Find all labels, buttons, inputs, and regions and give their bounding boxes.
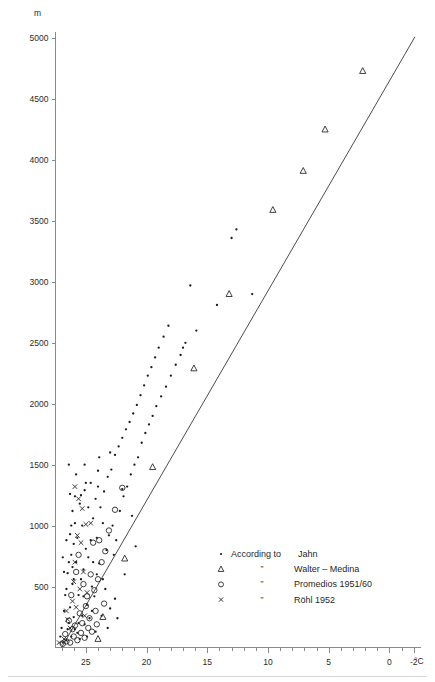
data-point [66, 572, 68, 574]
data-point [132, 412, 134, 414]
data-point [97, 470, 99, 472]
data-point [119, 510, 121, 512]
data-point [189, 284, 191, 286]
data-point [148, 423, 150, 425]
data-point [109, 451, 111, 453]
data-point [121, 437, 123, 439]
data-point [79, 503, 81, 505]
data-point [175, 364, 177, 366]
data-point [130, 473, 132, 475]
data-point [216, 304, 218, 306]
data-point [90, 482, 92, 484]
data-point [69, 493, 71, 495]
data-point [134, 545, 136, 547]
y-tick-label-1000: 1000 [30, 521, 49, 531]
x-tick-label-20: 20 [142, 657, 152, 667]
data-point [136, 404, 138, 406]
data-point [103, 490, 105, 492]
data-point [96, 573, 98, 575]
data-point [83, 464, 85, 466]
data-point [184, 342, 186, 344]
data-point [113, 554, 115, 556]
data-point [114, 454, 116, 456]
data-point [102, 578, 104, 580]
data-point [104, 588, 106, 590]
data-point [143, 384, 145, 386]
data-point [147, 375, 149, 377]
y-tick-label-3000: 3000 [30, 277, 49, 287]
data-point [87, 506, 89, 508]
legend-ditto-mark: ” [261, 564, 264, 574]
data-point [111, 524, 113, 526]
y-tick-label-4500: 4500 [30, 94, 49, 104]
data-point [87, 556, 89, 558]
data-point [91, 585, 93, 587]
data-point [65, 539, 67, 541]
data-point [59, 635, 61, 637]
data-point [107, 476, 109, 478]
data-point [80, 494, 82, 496]
x-tick-label-5: 5 [326, 657, 331, 667]
data-point [97, 485, 99, 487]
y-tick-label-2500: 2500 [30, 338, 49, 348]
data-point [98, 456, 100, 458]
data-point [60, 627, 62, 629]
data-point [182, 347, 184, 349]
legend-label: Röhl 1952 [294, 595, 335, 605]
data-point [179, 354, 181, 356]
data-point [131, 515, 133, 517]
data-point [83, 489, 85, 491]
data-point [109, 607, 111, 609]
data-point [71, 566, 73, 568]
y-tick-label-1500: 1500 [30, 460, 49, 470]
data-point [115, 539, 117, 541]
data-point [121, 488, 123, 490]
chart-figure: 500100015002000250030003500400045005000 … [0, 0, 435, 682]
data-point [68, 561, 70, 563]
data-point [167, 325, 169, 327]
data-point [126, 485, 128, 487]
data-point [73, 543, 75, 545]
data-point [195, 329, 197, 331]
data-point [114, 598, 116, 600]
y-tick-label-3500: 3500 [30, 216, 49, 226]
x-tick-label-15: 15 [203, 657, 213, 667]
x-tick-label-25: 25 [81, 657, 91, 667]
x-tick-label-10: 10 [263, 657, 273, 667]
data-point [92, 517, 94, 519]
data-point [124, 573, 126, 575]
data-point [122, 495, 124, 497]
legend-ditto-mark: ” [261, 579, 264, 589]
data-point [73, 616, 75, 618]
data-point [68, 464, 70, 466]
data-point [88, 617, 90, 619]
data-point [65, 588, 67, 590]
data-point [116, 617, 118, 619]
data-point [107, 627, 109, 629]
data-point [77, 594, 79, 596]
y-tick-label-4000: 4000 [30, 155, 49, 165]
data-point [170, 375, 172, 377]
y-tick-label-2000: 2000 [30, 399, 49, 409]
data-point [93, 595, 95, 597]
data-point [162, 336, 164, 338]
x-axis-unit-label: °C [414, 656, 424, 666]
data-point [85, 548, 87, 550]
data-point [154, 356, 156, 358]
data-point [125, 428, 127, 430]
scatter-chart: 500100015002000250030003500400045005000 … [0, 0, 435, 682]
legend-label: Walter – Medina [294, 564, 359, 574]
data-point [133, 464, 135, 466]
data-point [74, 495, 76, 497]
data-point [151, 415, 153, 417]
x-tick-label-0: 0 [387, 657, 392, 667]
data-point [99, 506, 101, 508]
data-point [158, 347, 160, 349]
legend-label: Jahn [298, 549, 318, 559]
legend-ditto-mark: ” [261, 595, 264, 605]
data-point [102, 522, 104, 524]
data-point [73, 578, 75, 580]
data-point [108, 534, 110, 536]
y-tick-label-500: 500 [34, 582, 48, 592]
data-point [160, 395, 162, 397]
